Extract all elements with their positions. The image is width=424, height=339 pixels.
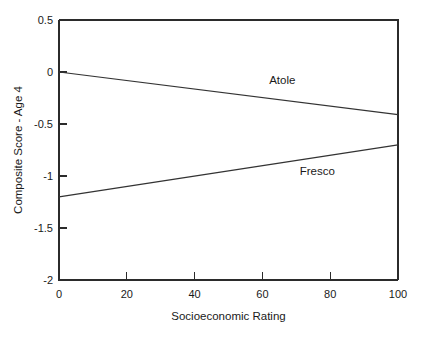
y-tick-label: -2 [43, 274, 53, 286]
chart-figure: 0.5 0 -0.5 -1 -1.5 -2 0 20 40 60 80 100 [0, 0, 424, 339]
y-tick-label: -1 [43, 170, 53, 182]
x-tick-label: 40 [188, 288, 200, 300]
series-label-fresco: Fresco [300, 165, 335, 177]
x-tick-label: 100 [389, 288, 407, 300]
y-axis-tick-labels: 0.5 0 -0.5 -1 -1.5 -2 [34, 14, 53, 286]
x-tick-label: 20 [121, 288, 133, 300]
y-tick-label: -1.5 [34, 222, 53, 234]
x-tick-label: 80 [324, 288, 336, 300]
x-axis-title: Socioeconomic Rating [171, 310, 285, 322]
x-tick-label: 60 [256, 288, 268, 300]
y-axis-title: Composite Score - Age 4 [12, 85, 24, 213]
x-axis-tick-labels: 0 20 40 60 80 100 [56, 288, 407, 300]
y-tick-label: 0 [47, 66, 53, 78]
series-label-atole: Atole [269, 74, 295, 86]
plot-area-background [59, 20, 398, 280]
y-tick-label: -0.5 [34, 118, 53, 130]
line-chart: 0.5 0 -0.5 -1 -1.5 -2 0 20 40 60 80 100 [0, 0, 424, 339]
y-tick-label: 0.5 [38, 14, 53, 26]
x-tick-label: 0 [56, 288, 62, 300]
